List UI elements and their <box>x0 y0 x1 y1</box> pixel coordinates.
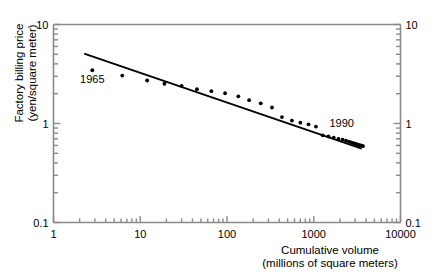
data-point <box>290 119 294 123</box>
data-point <box>314 125 318 129</box>
x-tick-label: 100 <box>218 228 236 240</box>
data-point <box>236 94 240 98</box>
data-point <box>90 68 94 72</box>
data-point <box>145 79 149 83</box>
x-axis-title-line2: (millions of square meters) <box>232 257 428 270</box>
tick-label-group: 1101001000100000.11100.1110 <box>33 19 421 240</box>
data-point <box>270 106 274 110</box>
x-axis-title-line1: Cumulative volume <box>232 244 428 257</box>
data-point <box>120 74 124 78</box>
data-point <box>259 101 263 105</box>
annotation-group: 19651990 <box>80 73 354 128</box>
data-point <box>209 89 213 93</box>
data-point <box>223 91 227 95</box>
chart-canvas: 19651990 1101001000100000.11100.1110 <box>0 0 436 280</box>
data-point <box>307 122 311 126</box>
y-tick-label-right: 1 <box>406 118 412 130</box>
y-axis-title-line2: (yen/square meter) <box>26 3 39 143</box>
trend-line <box>85 54 361 149</box>
data-point <box>298 121 302 125</box>
x-tick-label: 1000 <box>302 228 326 240</box>
year-annotation: 1965 <box>80 73 104 85</box>
y-axis-title: Factory billing price (yen/square meter) <box>13 3 39 143</box>
figure-root: 19651990 1101001000100000.11100.1110 Fac… <box>0 0 436 280</box>
year-annotation: 1990 <box>329 117 353 129</box>
trendline-group <box>85 54 361 149</box>
y-tick-label-right: 10 <box>406 19 418 31</box>
y-axis-title-line1: Factory billing price <box>13 3 26 143</box>
data-point <box>361 144 365 148</box>
data-point <box>280 115 284 119</box>
data-point <box>247 98 251 102</box>
y-tick-label-left: 0.1 <box>33 217 48 229</box>
data-point <box>195 87 199 91</box>
y-tick-label-left: 1 <box>42 118 48 130</box>
x-tick-label: 10 <box>134 228 146 240</box>
x-tick-label: 10000 <box>385 228 416 240</box>
loglog-scatter-chart: 19651990 1101001000100000.11100.1110 <box>0 0 436 280</box>
x-tick-label: 1 <box>50 228 56 240</box>
y-tick-label-right: 0.1 <box>406 217 421 229</box>
x-axis-title: Cumulative volume (millions of square me… <box>232 244 428 270</box>
